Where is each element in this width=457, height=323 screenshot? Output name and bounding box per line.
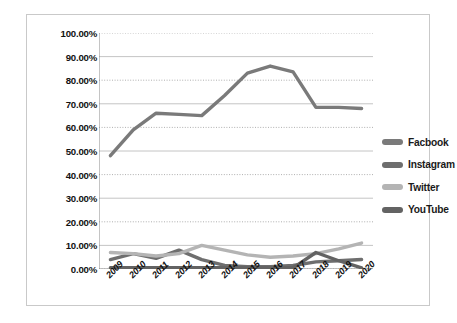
legend-swatch-icon	[382, 184, 403, 190]
line-chart-svg	[99, 33, 373, 269]
y-tick-label: 0.00%	[71, 264, 97, 275]
series-lines	[110, 66, 361, 268]
legend-item-instagram[interactable]: Instagram	[382, 154, 457, 177]
y-tick-label: 10.00%	[66, 240, 97, 251]
legend-item-youtube[interactable]: YouTube	[382, 199, 457, 222]
y-tick-label: 100.00%	[61, 28, 97, 39]
legend-label: Instagram	[408, 159, 455, 170]
y-tick-label: 40.00%	[66, 169, 97, 180]
legend-swatch-icon	[382, 162, 403, 168]
y-tick-label: 50.00%	[66, 146, 97, 157]
chart-frame: 0.00%10.00%20.00%30.00%40.00%50.00%60.00…	[26, 14, 430, 306]
y-tick-label: 30.00%	[66, 193, 97, 204]
x-axis: 2009201020112012201320142015201620172018…	[99, 271, 373, 315]
y-tick-label: 20.00%	[66, 216, 97, 227]
gridlines	[99, 33, 373, 269]
series-line-facbook	[110, 66, 361, 156]
plot-area	[99, 33, 373, 269]
chart-legend: FacbookInstagramTwitterYouTube	[382, 131, 457, 221]
legend-label: YouTube	[408, 204, 449, 215]
y-tick-label: 80.00%	[66, 75, 97, 86]
legend-item-facbook[interactable]: Facbook	[382, 131, 457, 154]
y-axis: 0.00%10.00%20.00%30.00%40.00%50.00%60.00…	[53, 33, 97, 269]
y-tick-label: 90.00%	[66, 51, 97, 62]
y-tick-label: 60.00%	[66, 122, 97, 133]
legend-item-twitter[interactable]: Twitter	[382, 176, 457, 199]
y-tick-label: 70.00%	[66, 98, 97, 109]
legend-label: Twitter	[408, 182, 439, 193]
legend-swatch-icon	[382, 139, 403, 145]
legend-swatch-icon	[382, 207, 403, 213]
legend-label: Facbook	[408, 137, 449, 148]
